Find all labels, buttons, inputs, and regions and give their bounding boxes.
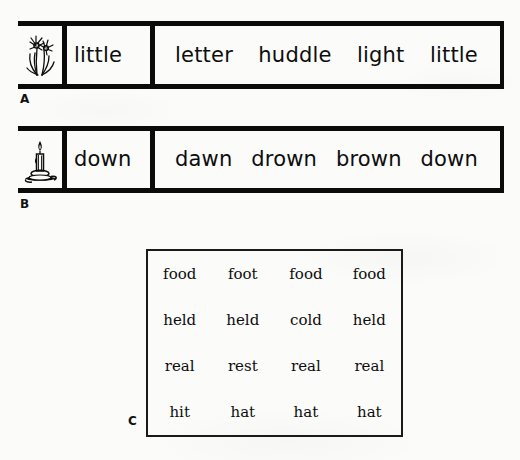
- row-a-end-bar: [500, 21, 504, 89]
- row-b-choice-1[interactable]: dawn: [175, 149, 232, 170]
- table-row: real rest real real: [148, 343, 401, 389]
- row-b-label: B: [20, 197, 30, 211]
- row-a-choice-2[interactable]: huddle: [258, 45, 331, 66]
- grid-c-cell-r2c2[interactable]: held: [211, 297, 274, 343]
- row-b-choice-3[interactable]: brown: [336, 149, 402, 170]
- grid-c-cell-r3c1[interactable]: real: [148, 343, 211, 389]
- row-a-choices-cell: letter huddle light little: [155, 26, 500, 84]
- row-a-bottom-rule: [18, 84, 504, 89]
- grid-c-cell-r1c2[interactable]: foot: [211, 251, 274, 297]
- row-a-target-cell: little: [67, 26, 150, 84]
- grid-c-cell-r3c2[interactable]: rest: [211, 343, 274, 389]
- row-a-target-word: little: [74, 45, 122, 66]
- row-b-target-word: down: [74, 149, 131, 170]
- row-a-label: A: [20, 92, 30, 106]
- row-a-choice-3[interactable]: light: [357, 45, 405, 66]
- grid-c-cell-r1c3[interactable]: food: [274, 251, 337, 297]
- grid-c-cell-r3c4[interactable]: real: [338, 343, 401, 389]
- grid-c-cell-r4c2[interactable]: hat: [211, 389, 274, 435]
- row-b-choice-2[interactable]: drown: [251, 149, 317, 170]
- row-b-choices-cell: dawn drown brown down: [155, 131, 500, 188]
- table-row: hit hat hat hat: [148, 389, 401, 435]
- row-a-icon-cell: [18, 26, 62, 84]
- grid-c-cell-r1c4[interactable]: food: [338, 251, 401, 297]
- row-a-choice-1[interactable]: letter: [175, 45, 233, 66]
- exercise-row-a: little letter huddle light little: [18, 21, 504, 89]
- grid-c-cell-r2c1[interactable]: held: [148, 297, 211, 343]
- worksheet-page: little letter huddle light little A: [0, 0, 520, 460]
- grid-c-cell-r1c1[interactable]: food: [148, 251, 211, 297]
- grid-c-cell-r2c4[interactable]: held: [338, 297, 401, 343]
- flower-icon: [24, 30, 56, 80]
- grid-c-cell-r3c3[interactable]: real: [274, 343, 337, 389]
- grid-c-label: C: [128, 414, 137, 428]
- row-b-bottom-rule: [18, 188, 504, 193]
- grid-c-cell-r2c3[interactable]: cold: [274, 297, 337, 343]
- row-b-choice-4[interactable]: down: [421, 149, 478, 170]
- row-b-icon-cell: [18, 131, 62, 188]
- grid-c-table: food foot food food held held cold held …: [148, 251, 401, 435]
- table-row: held held cold held: [148, 297, 401, 343]
- row-a-choice-4[interactable]: little: [430, 45, 478, 66]
- grid-c-box: food foot food food held held cold held …: [146, 249, 403, 437]
- row-b-target-cell: down: [67, 131, 150, 188]
- candle-icon: [20, 135, 60, 185]
- grid-c-cell-r4c4[interactable]: hat: [338, 389, 401, 435]
- table-row: food foot food food: [148, 251, 401, 297]
- row-b-end-bar: [500, 126, 504, 193]
- grid-c-cell-r4c1[interactable]: hit: [148, 389, 211, 435]
- exercise-row-b: down dawn drown brown down: [18, 126, 504, 193]
- grid-c-cell-r4c3[interactable]: hat: [274, 389, 337, 435]
